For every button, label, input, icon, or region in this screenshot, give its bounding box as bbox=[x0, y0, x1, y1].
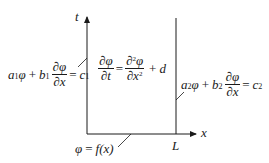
partial-fraction: ∂φ ∂x bbox=[225, 70, 241, 98]
fraction-numerator: ∂φ bbox=[98, 54, 114, 68]
subscript: 2 bbox=[258, 83, 262, 91]
plus: + bbox=[149, 62, 156, 75]
phi: φ bbox=[136, 53, 143, 68]
fraction-numerator: ∂φ bbox=[52, 60, 68, 74]
subscript: 2 bbox=[219, 83, 223, 91]
governing-equation: ∂φ ∂t = ∂2φ ∂x2 + d bbox=[96, 54, 166, 82]
partial-x: ∂x bbox=[127, 68, 139, 83]
plus: + bbox=[202, 78, 209, 91]
fraction-numerator: ∂φ bbox=[225, 70, 241, 84]
partial-fraction: ∂φ ∂x bbox=[52, 60, 68, 88]
time-derivative: ∂φ ∂t bbox=[98, 54, 114, 82]
fraction-denominator: ∂t bbox=[100, 69, 112, 83]
second-space-derivative: ∂2φ ∂x2 bbox=[125, 54, 144, 82]
fraction-numerator: ∂2φ bbox=[125, 54, 144, 68]
phi: φ bbox=[19, 68, 26, 81]
left-boundary-equation: a1 φ + b1 ∂φ ∂x = c1 bbox=[8, 60, 89, 88]
equals: = bbox=[116, 62, 123, 75]
subscript: 1 bbox=[85, 73, 89, 81]
fraction-denominator: ∂x bbox=[225, 85, 239, 99]
right-boundary-equation: a2 φ + b2 ∂φ ∂x = c2 bbox=[181, 70, 262, 98]
phi: φ bbox=[75, 142, 82, 155]
L-label: L bbox=[172, 139, 179, 152]
initial-condition-equation: φ = f (x) bbox=[75, 142, 114, 155]
subscript: 1 bbox=[15, 73, 19, 81]
subscript: 2 bbox=[188, 83, 192, 91]
equals: = bbox=[69, 68, 76, 81]
equals: = bbox=[85, 142, 92, 155]
fraction-denominator: ∂x2 bbox=[126, 69, 144, 83]
fraction-denominator: ∂x bbox=[52, 75, 66, 89]
phi: φ bbox=[192, 78, 199, 91]
t-axis-label: t bbox=[75, 10, 79, 23]
function-argument: (x) bbox=[99, 142, 113, 155]
plus: + bbox=[29, 68, 36, 81]
source-term: d bbox=[159, 62, 166, 75]
x-axis-label: x bbox=[201, 126, 207, 139]
initial-condition-leader bbox=[118, 134, 131, 147]
superscript: 2 bbox=[139, 70, 143, 78]
subscript: 1 bbox=[46, 73, 50, 81]
superscript: 2 bbox=[132, 55, 136, 63]
equals: = bbox=[242, 78, 249, 91]
